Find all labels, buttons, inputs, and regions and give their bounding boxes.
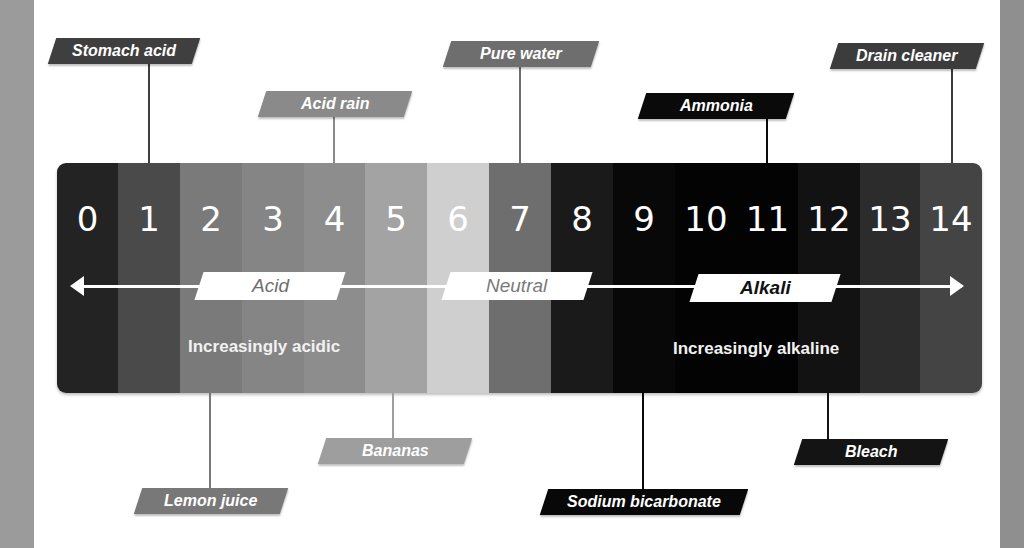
- tag-acid-rain: Acid rain: [258, 91, 412, 117]
- tag-bananas: Bananas: [318, 438, 472, 464]
- left-border-strip: [0, 0, 34, 548]
- ph-value: 0: [57, 199, 118, 239]
- ph-band-5: 5: [365, 163, 427, 393]
- ph-value: 4: [304, 199, 365, 239]
- tag-lemon-juice: Lemon juice: [134, 488, 288, 514]
- leader-line-acid-rain: [333, 116, 335, 164]
- ph-value: 10: [675, 199, 737, 239]
- tag-ammonia: Ammonia: [638, 93, 794, 119]
- tag-bleach: Bleach: [794, 439, 948, 465]
- tag-stomach-acid: Stomach acid: [48, 38, 200, 64]
- leader-line-stomach-acid: [148, 64, 150, 164]
- ph-value: 5: [365, 199, 427, 239]
- leader-line-bleach: [827, 393, 829, 439]
- ph-value: 1: [118, 199, 180, 239]
- leader-line-pure-water: [519, 66, 521, 164]
- ph-value: 7: [489, 199, 551, 239]
- tag-drain-cleaner: Drain cleaner: [830, 43, 984, 69]
- ph-band-13: 13: [860, 163, 920, 393]
- tag-sodium-bicarbonate: Sodium bicarbonate: [540, 489, 748, 515]
- region-label-neutral: Neutral: [441, 272, 592, 300]
- ph-value: 8: [551, 199, 613, 239]
- ph-value: 2: [180, 199, 242, 239]
- ph-value: 13: [860, 199, 920, 239]
- ph-band-0: 0: [57, 163, 118, 393]
- leader-line-ammonia: [766, 118, 768, 164]
- ph-band-1: 1: [118, 163, 180, 393]
- ph-value: 12: [798, 199, 860, 239]
- tag-pure-water: Pure water: [443, 41, 599, 67]
- right-border-strip: [1000, 0, 1024, 548]
- increasingly-acidic-label: Increasingly acidic: [188, 337, 340, 357]
- ph-value: 3: [242, 199, 304, 239]
- leader-line-sodium-bicarbonate: [642, 393, 644, 489]
- leader-line-bananas: [392, 393, 394, 438]
- ph-band-9: 9: [613, 163, 675, 393]
- ph-value: 9: [613, 199, 675, 239]
- increasingly-alkaline-label: Increasingly alkaline: [673, 339, 839, 359]
- ph-value: 6: [427, 199, 489, 239]
- region-label-acid: Acid: [194, 272, 345, 300]
- ph-value: 11: [737, 199, 798, 239]
- leader-line-lemon-juice: [209, 393, 211, 488]
- arrow-left-icon: [70, 276, 84, 296]
- leader-line-drain-cleaner: [951, 68, 953, 164]
- ph-value: 14: [920, 199, 982, 239]
- region-label-alkali: Alkali: [689, 274, 840, 302]
- arrow-right-icon: [950, 276, 964, 296]
